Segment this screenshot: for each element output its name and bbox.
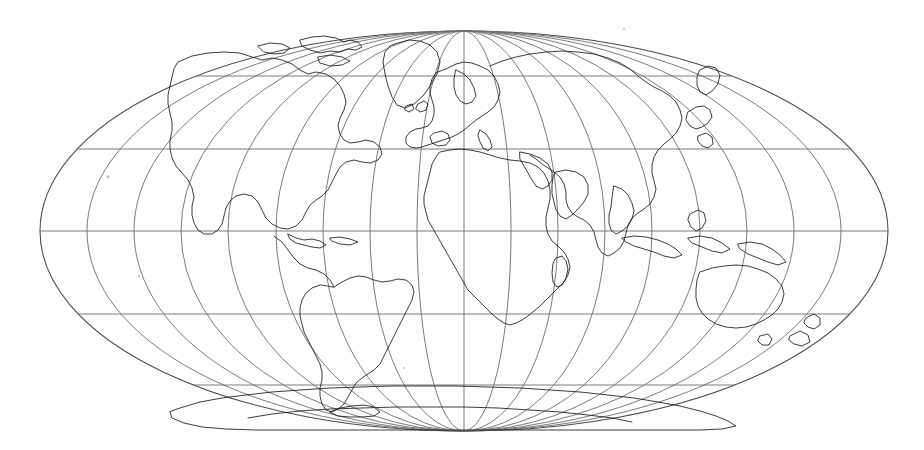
coastline-mediterranean-italy <box>478 130 492 151</box>
coastline-indonesia-2 <box>688 236 730 253</box>
coastline-africa <box>424 149 570 325</box>
coastline-new-zealand-2 <box>789 331 810 346</box>
coastline-japan-2 <box>698 133 713 148</box>
print-speck <box>138 275 140 277</box>
coastline-north-america <box>168 52 382 234</box>
coastline-india <box>552 170 588 219</box>
coastline-tasmania <box>758 334 772 345</box>
coastline-antarctica <box>170 386 736 430</box>
coastline-scandinavia <box>454 70 476 104</box>
coastline-south-america <box>300 276 414 412</box>
world-map-canvas: World map outline, Mollweide (elliptical… <box>0 0 924 450</box>
coastline-japan <box>686 106 712 129</box>
coastline-florida-caribbean <box>288 234 326 248</box>
coastline-madagascar <box>552 256 568 287</box>
coastline-british-isles-2 <box>405 104 414 112</box>
print-speck <box>403 367 405 369</box>
coastline-philippines <box>688 210 706 231</box>
graticule-group <box>40 31 888 431</box>
world-map-figure: World map outline, Mollweide (elliptical… <box>0 0 924 450</box>
coastline-europe <box>406 62 500 148</box>
coastlines-group <box>107 28 820 430</box>
coastline-caribbean-islands <box>330 237 358 245</box>
print-speck <box>623 28 625 30</box>
coastline-new-zealand <box>804 314 820 329</box>
coastline-southeast-asia <box>609 186 634 234</box>
coastline-british-isles <box>416 101 428 112</box>
print-speck <box>107 176 110 179</box>
coastline-arabia <box>520 152 552 189</box>
